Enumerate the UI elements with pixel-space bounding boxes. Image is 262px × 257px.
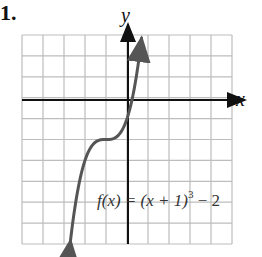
y-axis-label: y <box>119 4 130 27</box>
equation-suffix: − 2 <box>193 191 220 210</box>
equation-prefix: f(x) = (x + 1) <box>97 191 188 210</box>
graph: x y f(x) = (x + 1)3 − 2 <box>0 0 262 257</box>
x-axis-label: x <box>235 88 245 110</box>
equation-label: f(x) = (x + 1)3 − 2 <box>97 188 220 210</box>
